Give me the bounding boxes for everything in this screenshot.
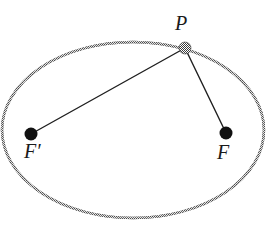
figure-background: [0, 0, 271, 234]
focus-f-prime-marker: [25, 128, 38, 141]
focus-f-prime-label: F′: [24, 141, 41, 161]
point-p-label: P: [175, 13, 187, 33]
focus-f-marker: [220, 127, 233, 140]
point-p-marker: [179, 42, 191, 54]
focus-f-label: F: [217, 142, 229, 162]
ellipse-figure: P F′ F: [0, 0, 271, 234]
ellipse-diagram-canvas: [0, 0, 271, 234]
